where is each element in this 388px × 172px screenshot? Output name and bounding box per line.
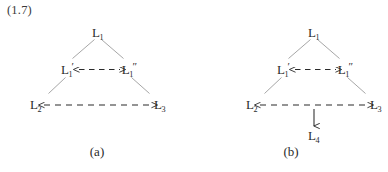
node-apex-a: L1: [92, 26, 104, 39]
node-apex-b: L1: [308, 26, 320, 39]
diagram-a-lines: mid-right --> bottom-right -->: [0, 0, 194, 140]
node-mid-right-b: L1″: [338, 63, 354, 76]
node-subscript: 2: [37, 105, 41, 114]
node-prime: ″: [348, 60, 352, 72]
figure-root: (1.7) mid-r: [0, 0, 388, 172]
node-mid-left-a: L1′: [61, 63, 75, 76]
node-prime: ″: [132, 60, 136, 72]
node-subscript: 3: [161, 105, 165, 114]
node-bottom-right-a: L3: [154, 98, 166, 111]
node-bottom-left-b: L2: [246, 98, 258, 111]
node-prime: ′: [71, 60, 73, 72]
caption-a: (a): [0, 144, 194, 160]
caption-b: (b): [194, 144, 388, 160]
node-bottom-right-b: L3: [370, 98, 382, 111]
node-prime: ′: [287, 60, 289, 72]
node-bottom-extra-b: L4: [308, 129, 320, 142]
node-subscript: 1: [99, 33, 103, 42]
node-mid-left-b: L1′: [277, 63, 291, 76]
node-bottom-left-a: L2: [30, 98, 42, 111]
node-subscript: 1: [315, 33, 319, 42]
diagram-panel-a: mid-right --> bottom-right --> L1 L1′ L1…: [0, 0, 194, 172]
diagram-panel-b: L1 L1′ L1″ L2 L3 L4 (b): [194, 0, 388, 172]
node-mid-right-a: L1″: [122, 63, 138, 76]
node-subscript: 2: [253, 105, 257, 114]
node-subscript: 3: [377, 105, 381, 114]
